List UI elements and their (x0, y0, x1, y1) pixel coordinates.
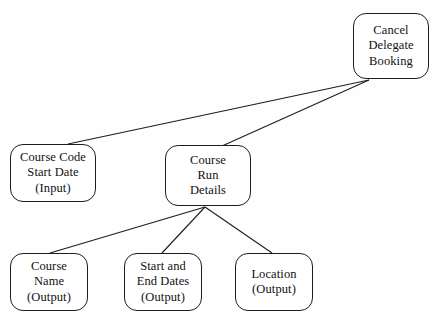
course-code-start-date-input-label-line: Start Date (27, 165, 78, 180)
course-name-output[interactable]: CourseName(Output) (10, 253, 88, 311)
course-name-output-label-line: Name (34, 274, 64, 289)
course-name-output-label-line: (Output) (27, 290, 71, 305)
connector-course-run-to-location (205, 207, 272, 253)
location-output[interactable]: Location(Output) (235, 253, 313, 311)
start-and-end-dates-output-label-line: Start and (140, 259, 186, 274)
course-run-details-label-line: Course (190, 153, 226, 168)
course-code-start-date-input-label-line: (Input) (35, 181, 70, 196)
connector-cancel-to-course-run (222, 80, 369, 146)
location-output-label-line: (Output) (252, 282, 296, 297)
location-output-label-line: Location (251, 267, 296, 282)
course-run-details[interactable]: CourseRunDetails (165, 145, 251, 206)
course-name-output-label-line: Course (31, 259, 67, 274)
course-code-start-date-input-label-line: Course Code (20, 150, 86, 165)
start-and-end-dates-output-label-line: End Dates (137, 274, 190, 289)
cancel-delegate-booking-label-line: Booking (369, 54, 413, 69)
diagram-canvas: CancelDelegateBookingCourse CodeStart Da… (0, 0, 435, 331)
cancel-delegate-booking[interactable]: CancelDelegateBooking (353, 13, 429, 79)
connector-course-run-to-course-name (50, 207, 205, 253)
cancel-delegate-booking-label-line: Cancel (373, 23, 408, 38)
cancel-delegate-booking-label-line: Delegate (368, 38, 413, 53)
course-code-start-date-input[interactable]: Course CodeStart Date(Input) (10, 144, 96, 202)
course-run-details-label-line: Run (197, 168, 218, 183)
connector-cancel-to-course-code (68, 80, 369, 144)
start-and-end-dates-output[interactable]: Start andEnd Dates(Output) (124, 253, 202, 311)
course-run-details-label-line: Details (190, 183, 226, 198)
start-and-end-dates-output-label-line: (Output) (141, 290, 185, 305)
